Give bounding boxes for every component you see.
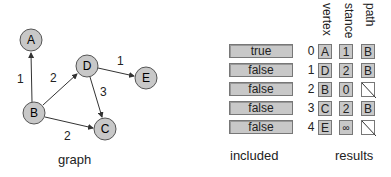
- distance-cell: ∞: [339, 120, 353, 135]
- svg-text:B: B: [30, 106, 38, 120]
- weight-b-d: 2: [50, 71, 57, 85]
- row-index: 1: [307, 63, 315, 77]
- distance-cell: 0: [339, 82, 353, 97]
- included-cell: false: [229, 63, 293, 77]
- node-c: C: [94, 118, 116, 140]
- graph-diagram: 1 2 2 3 1 A B C D E: [0, 0, 180, 177]
- graph-caption: graph: [58, 152, 91, 167]
- distance-cell: 1: [339, 44, 353, 59]
- node-a: A: [20, 29, 42, 51]
- vertex-cell: E: [318, 120, 332, 135]
- vertex-cell: B: [318, 82, 332, 97]
- path-cell-null: [361, 120, 375, 135]
- svg-text:C: C: [101, 122, 110, 136]
- edge-b-a: [31, 53, 32, 102]
- weight-d-e: 1: [117, 54, 124, 68]
- included-cell: false: [229, 101, 293, 115]
- weight-b-a: 1: [17, 72, 24, 86]
- node-b: B: [23, 102, 45, 124]
- weight-b-c: 2: [64, 129, 71, 143]
- null-slash-icon: [362, 121, 376, 136]
- svg-text:D: D: [83, 59, 92, 73]
- header-distance: stance: [342, 3, 356, 38]
- null-slash-icon: [362, 83, 376, 98]
- edge-d-e: [98, 68, 134, 76]
- included-cell: false: [229, 82, 293, 96]
- node-e: E: [135, 67, 157, 89]
- node-d: D: [76, 55, 98, 77]
- included-cell: true: [229, 44, 293, 58]
- svg-text:A: A: [27, 33, 35, 47]
- vertex-cell: A: [318, 44, 332, 59]
- path-cell: B: [361, 101, 375, 116]
- distance-cell: 2: [339, 63, 353, 78]
- included-cell: false: [229, 120, 293, 134]
- svg-text:E: E: [142, 71, 150, 85]
- path-cell-null: [361, 82, 375, 97]
- header-vertex: vertex: [320, 3, 334, 36]
- header-path: path: [363, 3, 377, 26]
- weight-d-c: 3: [100, 85, 107, 99]
- row-index: 3: [307, 101, 315, 115]
- row-index: 4: [307, 120, 315, 134]
- path-cell: B: [361, 44, 375, 59]
- vertex-cell: D: [318, 63, 332, 78]
- path-cell: B: [361, 63, 375, 78]
- distance-cell: 2: [339, 101, 353, 116]
- vertex-cell: C: [318, 101, 332, 116]
- graph-nodes: A B C D E: [20, 29, 157, 140]
- row-index: 0: [307, 44, 315, 58]
- edge-b-c: [45, 117, 93, 128]
- included-caption: included: [230, 148, 278, 163]
- edge-b-d: [43, 74, 77, 105]
- row-index: 2: [307, 82, 315, 96]
- results-caption: results: [335, 148, 373, 163]
